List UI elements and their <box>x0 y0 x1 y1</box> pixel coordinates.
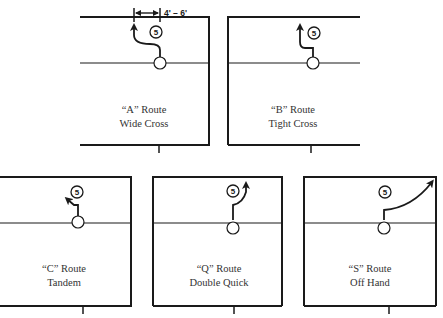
route-name: “C” Route <box>42 263 86 274</box>
player-marker <box>154 57 166 69</box>
route-diagram: 4' – 6' 5 “A” Route Wide Cross 5 “B” Rou… <box>0 0 443 318</box>
route-name: “Q” Route <box>197 263 242 274</box>
route-description: Wide Cross <box>120 118 169 129</box>
panel-c: 5 “C” Route Tandem <box>0 177 131 314</box>
player-marker <box>378 222 390 234</box>
route-description: Off Hand <box>350 277 391 288</box>
route-description: Tandem <box>47 277 81 288</box>
route-name: “S” Route <box>349 263 392 274</box>
route-description: Double Quick <box>189 277 249 288</box>
panel-s: 5 “S” Route Off Hand <box>304 177 436 314</box>
player-number: 5 <box>312 29 317 38</box>
route-name: “A” Route <box>122 104 167 115</box>
route-path <box>384 182 432 220</box>
player-number: 5 <box>231 187 236 196</box>
route-description: Tight Cross <box>269 118 318 129</box>
dimension-marker: 4' – 6' <box>134 8 187 22</box>
player-marker <box>307 57 319 69</box>
panel-b: 5 “B” Route Tight Cross <box>228 17 360 153</box>
panel-q: 5 “Q” Route Double Quick <box>153 177 282 314</box>
player-number: 5 <box>383 188 388 197</box>
dimension-label: 4' – 6' <box>164 8 187 18</box>
route-name: “B” Route <box>271 104 315 115</box>
player-marker <box>72 216 84 228</box>
panel-a: 4' – 6' 5 “A” Route Wide Cross <box>80 8 209 153</box>
player-number: 5 <box>154 28 159 37</box>
player-number: 5 <box>75 188 80 197</box>
player-marker <box>227 222 239 234</box>
